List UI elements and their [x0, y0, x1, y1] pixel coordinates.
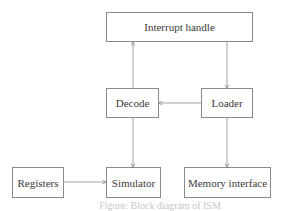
node-label: Registers	[18, 177, 59, 189]
node-label: Interrupt handle	[144, 21, 215, 33]
node-simulator: Simulator	[106, 167, 161, 198]
node-label: Loader	[211, 97, 242, 109]
node-loader: Loader	[201, 88, 253, 118]
node-label: Simulator	[112, 177, 155, 189]
node-memory-interface: Memory interface	[184, 167, 271, 198]
node-decode: Decode	[106, 88, 159, 118]
node-registers: Registers	[12, 167, 64, 198]
node-label: Memory interface	[188, 177, 267, 189]
node-interrupt-handle: Interrupt handle	[106, 12, 253, 42]
figure-caption: Figure: Block diagram of ISM	[60, 200, 260, 211]
node-label: Decode	[116, 97, 150, 109]
